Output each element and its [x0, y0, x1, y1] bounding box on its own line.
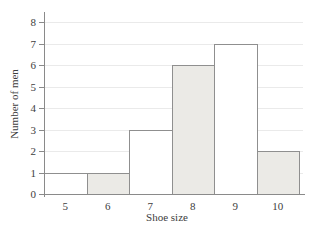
y-tick-label-1: 1: [18, 167, 36, 179]
y-tick-mark-3: [39, 130, 44, 131]
y-tick-mark-1: [39, 173, 44, 174]
y-tick-label-2: 2: [18, 145, 36, 157]
x-axis-line: [44, 194, 305, 195]
x-tick-label-7: 7: [136, 200, 164, 212]
histogram-bar-7: [129, 130, 173, 196]
plot-area: 0123456785678910: [0, 0, 322, 237]
x-tick-label-9: 9: [221, 200, 249, 212]
y-tick-mark-6: [39, 65, 44, 66]
y-tick-mark-8: [39, 22, 44, 23]
shoe-size-histogram: Number of men Shoe size 0123456785678910: [0, 0, 322, 237]
y-tick-mark-4: [39, 108, 44, 109]
histogram-bar-5: [44, 173, 88, 196]
y-tick-mark-0: [39, 194, 44, 195]
y-tick-mark-7: [39, 44, 44, 45]
y-tick-label-8: 8: [18, 16, 36, 28]
x-tick-label-10: 10: [264, 200, 292, 212]
x-tick-label-5: 5: [51, 200, 79, 212]
gridline-y-8: [45, 22, 303, 23]
y-tick-label-7: 7: [18, 38, 36, 50]
histogram-bar-6: [87, 173, 130, 196]
y-axis-line: [44, 12, 45, 197]
histogram-bar-10: [257, 151, 300, 195]
y-tick-label-5: 5: [18, 81, 36, 93]
y-tick-mark-5: [39, 87, 44, 88]
y-tick-label-4: 4: [18, 102, 36, 114]
y-tick-label-0: 0: [18, 188, 36, 200]
histogram-bar-9: [214, 44, 258, 196]
y-tick-mark-2: [39, 151, 44, 152]
gridline-y-7: [45, 44, 303, 45]
x-tick-label-8: 8: [179, 200, 207, 212]
x-tick-label-6: 6: [94, 200, 122, 212]
y-tick-label-6: 6: [18, 59, 36, 71]
y-tick-label-3: 3: [18, 124, 36, 136]
histogram-bar-8: [172, 65, 215, 195]
